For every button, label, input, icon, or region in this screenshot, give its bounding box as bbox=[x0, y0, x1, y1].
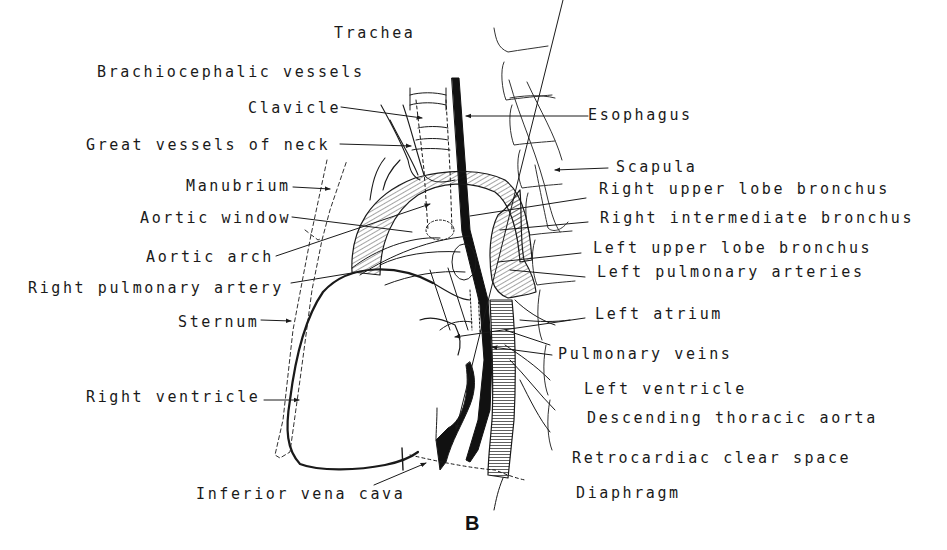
label-sternum: Sternum bbox=[178, 313, 259, 331]
label-scapula: Scapula bbox=[616, 158, 697, 176]
label-left-atrium: Left atrium bbox=[595, 305, 723, 323]
panel-letter: B bbox=[465, 512, 479, 535]
label-clavicle: Clavicle bbox=[248, 99, 341, 117]
label-left-ventricle: Left ventricle bbox=[584, 380, 747, 398]
sternum-outline bbox=[275, 160, 347, 458]
label-right-pulmonary-artery: Right pulmonary artery bbox=[28, 279, 284, 297]
descending-aorta-vessel bbox=[488, 300, 515, 478]
label-left-pulmonary-arteries: Left pulmonary arteries bbox=[597, 263, 865, 281]
leader-lines-right bbox=[455, 0, 608, 430]
label-aortic-arch: Aortic arch bbox=[146, 248, 274, 266]
label-right-ventricle: Right ventricle bbox=[86, 388, 260, 406]
label-right-upper-lobe-bronchus: Right upper lobe bronchus bbox=[599, 180, 890, 198]
label-manubrium: Manubrium bbox=[186, 177, 291, 195]
label-retrocardiac-clear-space: Retrocardiac clear space bbox=[572, 449, 851, 467]
label-descending-thoracic-aorta: Descending thoracic aorta bbox=[587, 409, 878, 427]
label-right-intermediate-bronchus: Right intermediate bronchus bbox=[600, 209, 914, 227]
heart-outline bbox=[287, 269, 433, 469]
label-left-upper-lobe-bronchus: Left upper lobe bronchus bbox=[593, 239, 872, 257]
label-aortic-window: Aortic window bbox=[140, 209, 291, 227]
esophagus-stripe bbox=[452, 78, 492, 462]
label-diaphragm: Diaphragm bbox=[576, 484, 681, 502]
label-great-vessels-of-neck: Great vessels of neck bbox=[86, 136, 330, 154]
label-pulmonary-veins: Pulmonary veins bbox=[558, 345, 732, 363]
label-inferior-vena-cava: Inferior vena cava bbox=[196, 485, 405, 503]
anatomical-diagram-panel-b: Trachea Brachiocephalic vessels Clavicle… bbox=[0, 0, 947, 550]
label-brachiocephalic-vessels: Brachiocephalic vessels bbox=[97, 63, 365, 81]
label-esophagus: Esophagus bbox=[588, 106, 693, 124]
label-trachea: Trachea bbox=[334, 24, 415, 42]
